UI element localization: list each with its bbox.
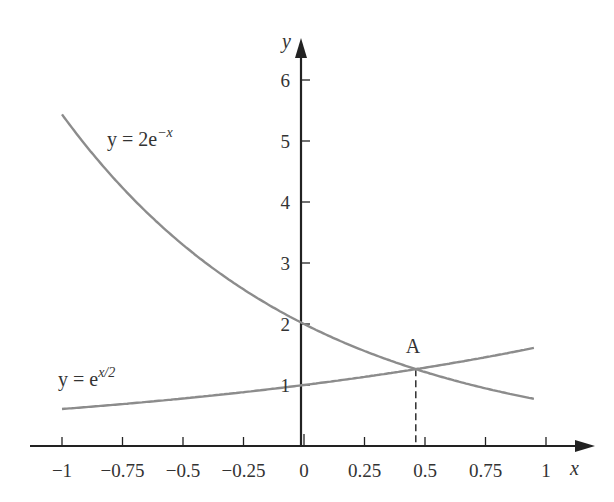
x-tick-label: −0.75: [101, 460, 145, 481]
curves: [62, 114, 534, 409]
y-axis-arrow-icon: [295, 38, 307, 58]
x-axis-label: x: [569, 457, 579, 479]
curve-1: [62, 114, 534, 398]
x-axis-arrow-icon: [575, 440, 595, 452]
y-axis-label: y: [280, 30, 291, 53]
y-tick-label: 3: [281, 253, 291, 274]
x-tick-label: −0.5: [166, 460, 200, 481]
y-tick-label: 6: [281, 70, 291, 91]
series-label-1: y = 2e−x: [107, 125, 174, 151]
series-label-2: y = ex/2: [58, 365, 115, 391]
x-tick-label: 0: [299, 460, 309, 481]
x-tick-label: 0.75: [469, 460, 502, 481]
curve-2: [62, 348, 534, 409]
x-tick-label: −1: [52, 460, 72, 481]
x-tick-label: 0.5: [413, 460, 437, 481]
point-a-label: A: [406, 335, 421, 357]
y-tick-label: 4: [281, 192, 291, 213]
y-tick-label: 1: [281, 375, 291, 396]
x-tick-label: 0.25: [348, 460, 381, 481]
x-tick-label: 1: [541, 460, 551, 481]
labels: −1−0.75−0.5−0.2500.250.50.751123456xyy =…: [52, 30, 579, 481]
chart: −1−0.75−0.5−0.2500.250.50.751123456xyy =…: [0, 0, 614, 502]
y-tick-label: 2: [281, 314, 291, 335]
y-tick-label: 5: [281, 131, 291, 152]
x-tick-label: −0.25: [222, 460, 266, 481]
axes: [30, 38, 595, 452]
